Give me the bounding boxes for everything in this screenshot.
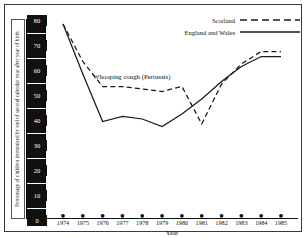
y-axis-tick-label: 40 — [27, 115, 47, 126]
x-axis-tick-marker — [180, 214, 184, 218]
y-axis-tick-label: 60 — [27, 65, 47, 76]
y-axis-tick-band: 01020304050607080 — [26, 19, 46, 219]
legend-key-solid-icon — [239, 29, 301, 35]
series-annotation: Whooping cough (Pertussis) — [93, 73, 170, 80]
legend-item-scotland: Scotland — [155, 14, 301, 26]
y-axis-tick-label: 70 — [27, 40, 47, 51]
chart-frame: Percentage of children immunised by end … — [4, 4, 302, 232]
x-axis-tick-marker — [101, 214, 105, 218]
y-axis-title: Percentage of children immunised by end … — [15, 31, 20, 206]
x-axis-tick-marker — [239, 214, 243, 218]
x-axis-tick-marker — [81, 214, 85, 218]
y-axis-title-container: Percentage of children immunised by end … — [11, 19, 25, 219]
legend-item-england-and-wales: England and Wales — [155, 26, 301, 38]
y-axis-tick-label: 0 — [27, 215, 47, 226]
x-axis-tick-marker — [160, 214, 164, 218]
y-axis-tick-separator — [27, 33, 47, 34]
x-axis-tick-marker — [140, 214, 144, 218]
x-axis-tick-marker — [259, 214, 263, 218]
y-axis-tick-separator — [27, 158, 47, 159]
x-axis-tick-marker — [121, 214, 125, 218]
x-axis-tick-marker — [220, 214, 224, 218]
y-axis-tick-separator — [27, 58, 47, 59]
x-axis-tick-marker — [61, 214, 65, 218]
x-axis-tick-marker — [279, 214, 283, 218]
series-canvas — [46, 19, 298, 219]
y-axis-tick-separator — [27, 208, 47, 209]
y-axis-tick-label: 10 — [27, 190, 47, 201]
y-axis-tick-separator — [27, 183, 47, 184]
y-axis-tick-separator — [27, 133, 47, 134]
x-axis-tick-marker — [200, 214, 204, 218]
y-axis-tick-label: 20 — [27, 165, 47, 176]
y-axis-tick-label: 30 — [27, 140, 47, 151]
legend-key-dashed-icon — [239, 17, 301, 23]
legend-label-scotland: Scotland — [212, 17, 235, 24]
y-axis-tick-label: 50 — [27, 90, 47, 101]
y-axis-tick-separator — [27, 108, 47, 109]
x-axis-tick-label: 1985 — [268, 219, 294, 226]
chart-legend: Scotland England and Wales — [155, 14, 301, 38]
x-axis-title: Year — [46, 229, 298, 236]
plot-area — [46, 19, 298, 219]
legend-label-england-and-wales: England and Wales — [184, 29, 235, 36]
y-axis-tick-label: 80 — [27, 15, 47, 26]
y-axis-tick-separator — [27, 83, 47, 84]
